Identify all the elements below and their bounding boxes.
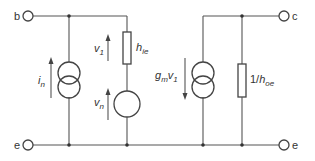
dependent-current-source	[192, 62, 214, 98]
label-gmv1: gmv1	[155, 69, 178, 84]
label-hoe: 1/hoe	[250, 73, 275, 88]
label-v1: v1	[94, 42, 104, 57]
label-hie: hie	[136, 41, 149, 56]
junction-dot	[125, 143, 129, 147]
junction-dot	[240, 143, 244, 147]
noise-current-source	[58, 62, 80, 98]
gm-current-arrow-icon	[183, 58, 188, 100]
v1-arrow-icon	[106, 34, 111, 61]
terminal-collector	[279, 11, 289, 21]
terminal-label-collector: c	[292, 10, 298, 22]
junction-dot	[240, 14, 244, 18]
label-in: in	[38, 74, 45, 89]
noise-current-arrow-icon	[49, 57, 54, 98]
resistor-hie	[123, 32, 131, 64]
junction-dot	[67, 14, 71, 18]
terminal-emitter-left	[23, 140, 33, 150]
junction-dot	[67, 143, 71, 147]
terminal-emitter-right	[279, 140, 289, 150]
terminal-label-base: b	[14, 10, 20, 22]
terminal-base	[23, 11, 33, 21]
label-vn: vn	[94, 96, 105, 111]
terminal-label-emitter-right: e	[292, 139, 298, 151]
terminal-label-emitter-left: e	[14, 139, 20, 151]
circuit-diagram: in v1 hie vn gmv1 1/hoe	[0, 0, 315, 161]
noise-voltage-source	[114, 91, 140, 117]
junction-dot	[201, 143, 205, 147]
vn-arrow-icon	[106, 88, 111, 120]
resistor-hoe	[238, 64, 246, 97]
